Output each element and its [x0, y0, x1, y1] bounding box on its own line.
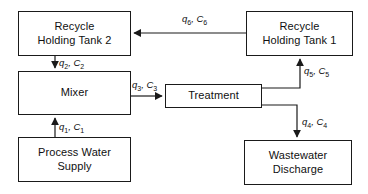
edge-label-q1: q1, C1 [59, 122, 84, 132]
edge-label-q2: q2, C2 [59, 58, 84, 68]
node-label-recycle-holding-tank-1: Recycle Holding Tank 1 [261, 20, 339, 47]
edge-conc-subscript-q3: 3 [153, 85, 157, 92]
node-recycle-holding-tank-1[interactable]: Recycle Holding Tank 1 [246, 11, 353, 56]
connector-q4 [262, 105, 297, 137]
node-label-mixer: Mixer [59, 86, 90, 99]
edge-conc-subscript-q6: 6 [203, 19, 207, 26]
edge-label-q3: q3, C3 [132, 80, 157, 90]
connector-q5 [262, 59, 300, 88]
edge-label-q4: q4, C4 [302, 117, 327, 127]
edge-label-q5: q5, C5 [304, 66, 329, 76]
edge-conc-subscript-q4: 4 [323, 122, 327, 129]
edge-conc-subscript-q1: 1 [80, 127, 84, 134]
node-treatment[interactable]: Treatment [165, 84, 262, 108]
node-recycle-holding-tank-2[interactable]: Recycle Holding Tank 2 [18, 11, 131, 56]
node-wastewater-discharge[interactable]: Wastewater Discharge [244, 140, 352, 185]
node-label-process-water-supply: Process Water Supply [36, 146, 113, 173]
process-flow-diagram: Recycle Holding Tank 2 Recycle Holding T… [0, 0, 368, 194]
node-label-treatment: Treatment [186, 89, 241, 102]
node-process-water-supply[interactable]: Process Water Supply [18, 137, 131, 182]
node-mixer[interactable]: Mixer [18, 71, 131, 115]
edge-label-q6: q6, C6 [182, 14, 207, 24]
node-label-recycle-holding-tank-2: Recycle Holding Tank 2 [36, 20, 114, 47]
node-label-wastewater-discharge: Wastewater Discharge [267, 149, 330, 176]
edge-conc-subscript-q5: 5 [325, 71, 329, 78]
edge-conc-subscript-q2: 2 [80, 63, 84, 70]
